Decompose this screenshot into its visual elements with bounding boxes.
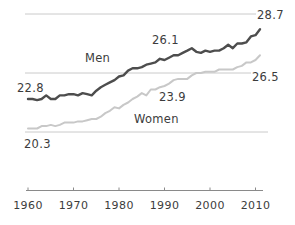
x-axis-tick-label: 1960 xyxy=(13,199,43,212)
women-start-value-label: 20.3 xyxy=(24,138,51,151)
x-axis-tick-label: 1990 xyxy=(150,199,180,212)
women-mid-value-label: 23.9 xyxy=(159,91,186,104)
x-axis-tick-label: 1980 xyxy=(104,199,134,212)
women-end-value-label: 26.5 xyxy=(251,71,280,84)
men-line xyxy=(28,29,260,100)
x-axis-tick-label: 1970 xyxy=(59,199,89,212)
men-end-value-label: 28.7 xyxy=(256,9,285,22)
men-series-label: Men xyxy=(85,52,110,65)
x-axis-tick-label: 2000 xyxy=(195,199,225,212)
women-series-label: Women xyxy=(134,113,179,126)
men-mid-value-label: 26.1 xyxy=(152,34,179,47)
median-age-line-chart: 22.8 Men 26.1 28.7 20.3 Women 23.9 26.5 … xyxy=(0,0,295,225)
men-start-value-label: 22.8 xyxy=(17,82,44,95)
x-axis-tick-label: 2010 xyxy=(241,199,271,212)
